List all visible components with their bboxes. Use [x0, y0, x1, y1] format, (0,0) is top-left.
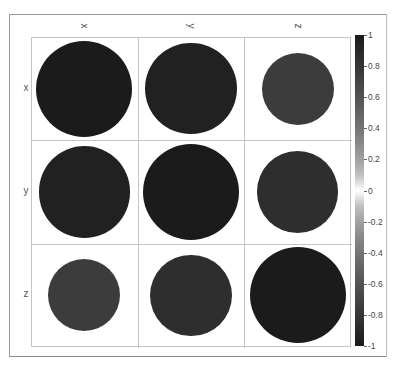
colorbar-tick	[364, 128, 367, 129]
cell-x-z	[245, 38, 352, 141]
colorbar-tick	[364, 222, 367, 223]
colorbar-tick-label: 0.6	[368, 92, 380, 102]
cell-z-z	[245, 245, 352, 348]
colorbar-tick	[364, 66, 367, 67]
cell-z-x	[32, 245, 139, 348]
colorbar-tick	[364, 35, 367, 36]
cell-x-y	[139, 38, 246, 141]
cell-y-x	[32, 141, 139, 244]
colorbar-tick-label: 1	[368, 30, 373, 40]
row-label-x: x	[21, 82, 31, 94]
colorbar-tick-label: 0.4	[368, 123, 380, 133]
cell-x-x	[32, 38, 139, 141]
correlation-circle	[150, 255, 232, 337]
correlation-circle	[36, 41, 132, 137]
colorbar-tick	[364, 284, 367, 285]
colorbar-tick-label: 0	[368, 186, 373, 196]
colorbar-tick	[364, 159, 367, 160]
colorbar-tick-label: 0.8	[368, 61, 380, 71]
colorbar-tick-label: -0.8	[368, 310, 383, 320]
column-label-y: y	[185, 20, 197, 32]
cell-y-y	[139, 141, 246, 244]
colorbar-tick	[364, 346, 367, 347]
row-label-y: y	[21, 185, 31, 197]
correlation-circle	[143, 144, 239, 240]
correlation-grid	[31, 37, 351, 347]
colorbar-tick-label: -0.6	[368, 279, 383, 289]
correlation-circle	[250, 247, 346, 343]
correlation-circle	[262, 53, 334, 125]
colorbar-tick-label: 0.2	[368, 154, 380, 164]
column-label-z: z	[292, 20, 304, 32]
column-label-x: x	[78, 20, 90, 32]
correlation-circle	[257, 151, 339, 233]
colorbar-tick	[364, 97, 367, 98]
cell-z-y	[139, 245, 246, 348]
cell-y-z	[245, 141, 352, 244]
colorbar-tick-label: -0.4	[368, 248, 383, 258]
correlation-circle	[39, 146, 130, 237]
colorbar-tick-label: -0.2	[368, 217, 383, 227]
colorbar-tick-label: -1	[368, 341, 376, 351]
colorbar	[355, 35, 364, 346]
row-label-z: z	[21, 288, 31, 300]
correlation-circle	[145, 43, 236, 134]
correlation-circle	[48, 259, 120, 331]
colorbar-tick	[364, 253, 367, 254]
colorbar-tick	[364, 191, 367, 192]
colorbar-tick	[364, 315, 367, 316]
